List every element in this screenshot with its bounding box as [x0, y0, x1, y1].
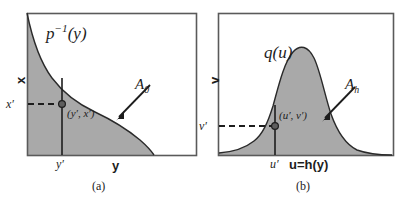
panel-a-curve-label-argument: (y) — [68, 24, 87, 43]
panel-b-y-tick-label: v′ — [199, 120, 207, 132]
panel-b-point-label: (u′, v′) — [279, 110, 307, 121]
panel-b-point-marker — [272, 123, 279, 130]
panel-a-region-label-base: A — [135, 76, 144, 92]
panel-b-shaded-region — [219, 47, 392, 155]
panel-b-curve-label: q(u) — [264, 44, 292, 61]
panel-a-point-label: (y′, x′) — [67, 108, 94, 119]
panel-a-y-tick-label: x′ — [6, 98, 14, 110]
panel-b-region-label: Ah — [345, 77, 359, 95]
panel-b-y-axis-label: v — [208, 77, 221, 84]
panel-b-x-tick-label: u′ — [270, 158, 279, 170]
panel-a-x-axis-label: y — [112, 159, 119, 172]
panel-a-y-axis-label: x — [14, 77, 27, 84]
panel-a-curve-label-base: p — [46, 24, 55, 43]
panel-a-x-tick-label: y′ — [56, 158, 64, 170]
panel-a-caption: (a) — [92, 180, 105, 192]
panel-a-curve-label: p−1(y) — [46, 23, 87, 42]
panel-b-region-label-base: A — [345, 76, 354, 92]
panel-b-graphics — [219, 14, 394, 156]
panel-a-region-label: A0 — [135, 77, 149, 95]
panel-a-point-marker — [59, 101, 66, 108]
panel-b-x-axis-label: u=h(y) — [289, 158, 328, 171]
panel-a-curve-label-exponent: −1 — [55, 22, 68, 34]
panel-b-region-label-subscript: h — [354, 84, 359, 95]
figure-container: p−1(y) A0 (y′, x′) x x′ y′ y (a) q(u) Ah… — [0, 0, 409, 204]
panel-a-region-label-subscript: 0 — [144, 84, 149, 95]
panel-b-caption: (b) — [296, 180, 310, 192]
